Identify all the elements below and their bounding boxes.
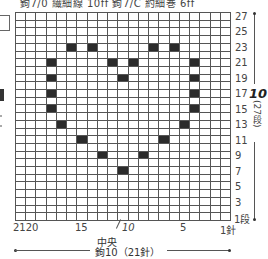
chart-cell bbox=[170, 98, 180, 106]
chart-cell bbox=[129, 52, 139, 60]
filled-stitch bbox=[190, 59, 200, 67]
chart-cell bbox=[16, 82, 26, 90]
chart-cell bbox=[108, 206, 118, 214]
chart-cell bbox=[180, 90, 190, 98]
chart-cell bbox=[170, 129, 180, 137]
chart-cell bbox=[88, 75, 98, 83]
chart-cell bbox=[200, 129, 210, 137]
chart-cell bbox=[36, 129, 46, 137]
chart-cell bbox=[170, 175, 180, 183]
filled-stitch bbox=[108, 59, 118, 67]
filled-stitch bbox=[77, 136, 87, 144]
chart-cell bbox=[118, 113, 128, 121]
chart-cell bbox=[47, 21, 57, 29]
knitting-chart-grid bbox=[15, 12, 231, 221]
chart-cell bbox=[16, 175, 26, 183]
chart-cell bbox=[98, 159, 108, 167]
chart-cell bbox=[221, 105, 231, 113]
chart-cell bbox=[149, 159, 159, 167]
chart-cell bbox=[47, 182, 57, 190]
chart-cell bbox=[67, 113, 77, 121]
row-label: 3 bbox=[235, 198, 241, 208]
chart-cell bbox=[108, 67, 118, 75]
chart-cell bbox=[108, 129, 118, 137]
chart-cell bbox=[180, 213, 190, 221]
chart-cell bbox=[36, 175, 46, 183]
chart-cell bbox=[139, 21, 149, 29]
chart-cell bbox=[159, 36, 169, 44]
chart-cell bbox=[180, 105, 190, 113]
chart-cell bbox=[108, 75, 118, 83]
chart-cell bbox=[108, 28, 118, 36]
chart-cell bbox=[36, 44, 46, 52]
chart-cell bbox=[149, 136, 159, 144]
chart-cell bbox=[190, 28, 200, 36]
chart-cell bbox=[77, 190, 87, 198]
chart-cell bbox=[57, 190, 67, 198]
chart-cell bbox=[211, 52, 221, 60]
chart-cell bbox=[118, 98, 128, 106]
chart-cell bbox=[36, 75, 46, 83]
chart-cell bbox=[98, 121, 108, 129]
chart-cell bbox=[129, 198, 139, 206]
chart-cell bbox=[118, 182, 128, 190]
chart-cell bbox=[57, 213, 67, 221]
cropped-left-box bbox=[0, 15, 10, 31]
chart-cell bbox=[16, 213, 26, 221]
chart-cell bbox=[159, 113, 169, 121]
chart-cell bbox=[67, 52, 77, 60]
chart-cell bbox=[98, 13, 108, 21]
chart-cell bbox=[88, 206, 98, 214]
chart-cell bbox=[190, 98, 200, 106]
chart-cell bbox=[47, 98, 57, 106]
chart-cell bbox=[16, 98, 26, 106]
chart-cell bbox=[67, 13, 77, 21]
chart-cell bbox=[26, 167, 36, 175]
chart-cell bbox=[149, 82, 159, 90]
chart-cell bbox=[159, 28, 169, 36]
arrow-tail-icon bbox=[228, 249, 231, 252]
chart-cell bbox=[211, 28, 221, 36]
chart-cell bbox=[159, 44, 169, 52]
rows-arrow-up bbox=[254, 14, 255, 84]
chart-cell bbox=[36, 152, 46, 160]
chart-cell bbox=[98, 198, 108, 206]
chart-cell bbox=[67, 98, 77, 106]
chart-cell bbox=[88, 198, 98, 206]
chart-cell bbox=[98, 28, 108, 36]
chart-cell bbox=[47, 67, 57, 75]
chart-cell bbox=[26, 152, 36, 160]
chart-cell bbox=[118, 52, 128, 60]
chart-cell bbox=[139, 28, 149, 36]
chart-cell bbox=[47, 152, 57, 160]
chart-cell bbox=[159, 98, 169, 106]
filled-stitch bbox=[57, 121, 67, 129]
chart-cell bbox=[170, 21, 180, 29]
width-label: 鉤10（21針） bbox=[95, 244, 160, 259]
chart-cell bbox=[57, 144, 67, 152]
chart-cell bbox=[180, 28, 190, 36]
chart-cell bbox=[118, 121, 128, 129]
chart-cell bbox=[180, 67, 190, 75]
chart-cell bbox=[26, 90, 36, 98]
chart-cell bbox=[36, 167, 46, 175]
chart-cell bbox=[139, 36, 149, 44]
chart-cell bbox=[77, 206, 87, 214]
chart-cell bbox=[180, 21, 190, 29]
chart-cell bbox=[88, 52, 98, 60]
chart-cell bbox=[98, 182, 108, 190]
chart-cell bbox=[170, 75, 180, 83]
chart-cell bbox=[77, 213, 87, 221]
col-label-5: 5 bbox=[180, 222, 186, 233]
chart-cell bbox=[159, 129, 169, 137]
chart-cell bbox=[88, 105, 98, 113]
chart-cell bbox=[118, 67, 128, 75]
chart-cell bbox=[200, 52, 210, 60]
chart-cell bbox=[129, 98, 139, 106]
chart-cell bbox=[129, 28, 139, 36]
chart-cell bbox=[200, 213, 210, 221]
chart-cell bbox=[170, 198, 180, 206]
chart-cell bbox=[67, 59, 77, 67]
chart-cell bbox=[149, 75, 159, 83]
chart-cell bbox=[170, 67, 180, 75]
